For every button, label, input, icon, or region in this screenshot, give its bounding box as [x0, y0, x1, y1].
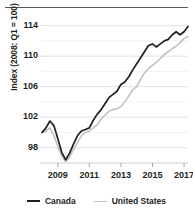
chart-legend: Canada United States [0, 193, 193, 209]
y-tick-label: 98 [14, 142, 38, 152]
y-tick-label: 110 [14, 50, 38, 60]
legend-label-united-states: United States [112, 196, 166, 206]
chart-figure: Index (2008: Q1 = 100) 98102106110114 20… [0, 0, 193, 214]
x-tick-label: 2017 [169, 170, 193, 180]
y-tick-label: 114 [14, 20, 38, 30]
legend-label-canada: Canada [45, 196, 76, 206]
y-tick-label: 102 [14, 111, 38, 121]
legend-item-united-states: United States [94, 196, 166, 206]
legend-item-canada: Canada [27, 196, 76, 206]
y-axis-title-text: Index (2008: Q1 = 100) [9, 3, 19, 90]
gridlines [42, 26, 188, 148]
y-tick-label: 106 [14, 81, 38, 91]
x-tick-label: 2011 [74, 170, 104, 180]
line-chart-plot [0, 0, 193, 214]
legend-line-icon-united-states [94, 201, 107, 202]
x-tick-label: 2013 [106, 170, 136, 180]
data-series [42, 26, 188, 161]
legend-line-icon-canada [27, 200, 40, 202]
x-tick-label: 2009 [43, 170, 73, 180]
x-tick-label: 2015 [137, 170, 167, 180]
